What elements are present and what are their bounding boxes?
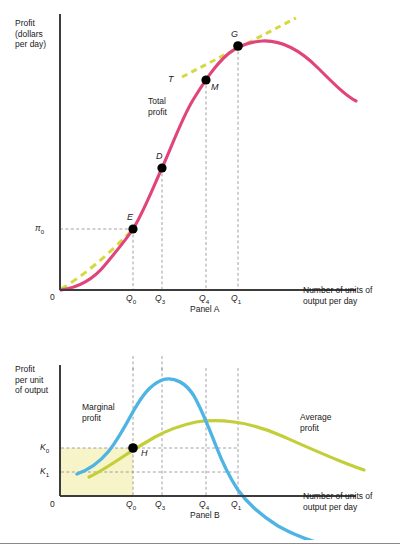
panel-a-point-label-E: E: [127, 212, 133, 223]
footer-divider: [0, 543, 400, 544]
economics-figure: Profit (dollars per day) Number of units…: [0, 0, 400, 552]
point-E: [128, 224, 137, 233]
panel-b-y-axis-title: Profit per unit of output: [15, 364, 48, 396]
panel-a-ray-line: [61, 229, 133, 289]
point-D: [157, 163, 166, 172]
panel-a-x-tick-q0: Q0: [126, 293, 136, 307]
figure-svg: [0, 0, 400, 552]
panel-b-data-points: [128, 443, 138, 453]
panel-a-name: Panel A: [190, 304, 219, 315]
point-M: [201, 75, 210, 84]
panel-a-x-tick-q3: Q3: [155, 293, 165, 307]
panel-a-total-profit-label: Total profit: [148, 96, 167, 117]
panel-a-tangent-label: T: [168, 74, 174, 85]
panel-a-x-tick-q1: Q1: [231, 293, 241, 307]
panel-a-axes: [60, 14, 356, 290]
panel-a-y-tick-pi0: π0: [35, 223, 44, 237]
panel-b-average-profit-label: Average profit: [300, 412, 332, 433]
panel-a-origin-label: 0: [50, 292, 55, 303]
panel-a-x-axis-title: Number of units of output per day: [303, 285, 372, 306]
panel-b-y-tick-k0: K0: [40, 442, 49, 456]
panel-b-x-tick-q0: Q0: [126, 499, 136, 513]
panel-b-x-axis-title: Number of units of output per day: [303, 491, 372, 512]
panel-b-y-tick-k1: K1: [40, 466, 49, 480]
panel-a-point-label-D: D: [156, 151, 163, 162]
panel-a-point-label-G: G: [231, 29, 238, 40]
panel-b-origin-label: 0: [50, 499, 55, 510]
panel-b-x-tick-q1: Q1: [231, 499, 241, 513]
panel-b-upper-gridlines: [133, 356, 162, 370]
panel-b-point-label-H: H: [141, 448, 148, 459]
point-G: [233, 41, 243, 51]
panel-b-x-tick-q3: Q3: [155, 499, 165, 513]
panel-a-point-label-M: M: [211, 82, 219, 93]
point-H: [128, 443, 138, 453]
panel-b-marginal-profit-label: Marginal profit: [82, 402, 115, 423]
panel-b-name: Panel B: [190, 510, 220, 521]
panel-a-y-axis-title: Profit (dollars per day): [15, 18, 46, 50]
